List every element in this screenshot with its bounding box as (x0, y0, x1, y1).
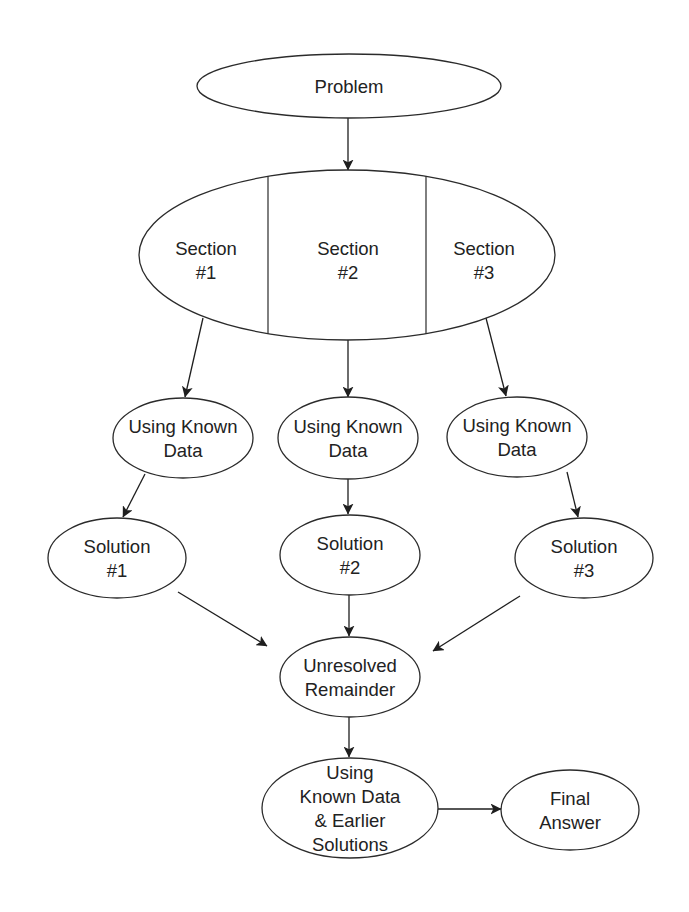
arrow-known-data-1-to-solution-1 (123, 474, 145, 517)
known-data-earlier-solutions-label-line: & Earlier (315, 810, 386, 831)
arrow-solution-1-to-unresolved-remainder (178, 592, 267, 646)
node-known-data-3: Using KnownData (447, 397, 587, 477)
section-1-label-line: #1 (196, 262, 217, 283)
section-3-label-line: #3 (474, 262, 495, 283)
known-data-2-ellipse (278, 397, 418, 479)
known-data-2-label-line: Using Known (293, 416, 402, 437)
node-known-data-earlier-solutions: UsingKnown Data& EarlierSolutions (262, 758, 438, 858)
final-answer-ellipse (501, 770, 639, 850)
final-answer-label-line: Final (550, 788, 590, 809)
arrow-section-1-to-known-data-1 (185, 318, 203, 397)
node-sections: Section#1Section#2Section#3 (139, 170, 555, 340)
solution-3-label-line: #3 (574, 560, 595, 581)
node-unresolved-remainder: UnresolvedRemainder (280, 637, 420, 717)
node-known-data-2: Using KnownData (278, 397, 418, 479)
flow-diagram: ProblemSection#1Section#2Section#3Using … (0, 0, 689, 912)
unresolved-remainder-label-line: Unresolved (303, 655, 397, 676)
final-answer-label-line: Answer (539, 812, 601, 833)
solution-2-ellipse (280, 515, 420, 595)
section-2-label-line: Section (317, 238, 379, 259)
section-1-label-line: Section (175, 238, 237, 259)
solution-1-ellipse (48, 518, 186, 598)
node-final-answer: FinalAnswer (501, 770, 639, 850)
section-3-label-line: Section (453, 238, 515, 259)
arrow-solution-3-to-unresolved-remainder (433, 596, 520, 651)
nodes-layer: ProblemSection#1Section#2Section#3Using … (48, 54, 653, 858)
node-solution-1: Solution#1 (48, 518, 186, 598)
solution-3-ellipse (515, 518, 653, 598)
problem-label-line: Problem (315, 76, 384, 97)
node-known-data-1: Using KnownData (113, 398, 253, 478)
solution-1-label-line: #1 (107, 560, 128, 581)
known-data-2-label-line: Data (328, 440, 368, 461)
node-solution-2: Solution#2 (280, 515, 420, 595)
node-problem: Problem (197, 54, 501, 118)
solution-3-label-line: Solution (551, 536, 618, 557)
known-data-3-ellipse (447, 397, 587, 477)
known-data-earlier-solutions-label-line: Solutions (312, 834, 388, 855)
known-data-3-label-line: Using Known (462, 415, 571, 436)
unresolved-remainder-ellipse (280, 637, 420, 717)
unresolved-remainder-label-line: Remainder (305, 679, 396, 700)
known-data-1-label-line: Data (163, 440, 203, 461)
known-data-earlier-solutions-label-line: Known Data (300, 786, 401, 807)
solution-2-label-line: Solution (317, 533, 384, 554)
known-data-earlier-solutions-label-line: Using (326, 762, 373, 783)
section-2-label-line: #2 (338, 262, 359, 283)
solution-1-label-line: Solution (84, 536, 151, 557)
arrow-section-3-to-known-data-3 (486, 318, 506, 396)
known-data-3-label-line: Data (497, 439, 537, 460)
arrow-known-data-3-to-solution-3 (567, 472, 578, 517)
node-solution-3: Solution#3 (515, 518, 653, 598)
solution-2-label-line: #2 (340, 557, 361, 578)
known-data-1-label-line: Using Known (128, 416, 237, 437)
known-data-1-ellipse (113, 398, 253, 478)
